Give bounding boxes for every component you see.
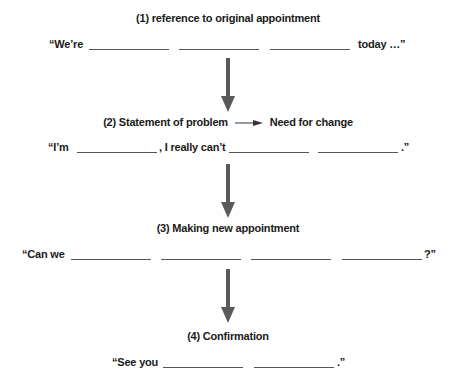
step-1-heading: (1) reference to original appointment bbox=[0, 12, 456, 24]
step-4-blank-2[interactable] bbox=[254, 367, 334, 368]
step-2-heading-right: Need for change bbox=[270, 116, 353, 128]
step-3-blank-2[interactable] bbox=[161, 259, 241, 260]
step-4-blank-1[interactable] bbox=[163, 367, 243, 368]
down-arrow-icon bbox=[220, 269, 236, 323]
step-2-prefix: “I’m bbox=[48, 141, 69, 153]
step-3-blank-3[interactable] bbox=[251, 259, 331, 260]
step-2-heading-left: (2) Statement of problem bbox=[103, 116, 228, 128]
step-3-heading: (3) Making new appointment bbox=[0, 222, 456, 234]
down-arrow-icon bbox=[220, 58, 236, 112]
step-2-suffix: .” bbox=[401, 141, 409, 153]
step-2-blank-2[interactable] bbox=[229, 152, 309, 153]
step-4-heading: (4) Confirmation bbox=[0, 330, 456, 342]
step-3-blank-1[interactable] bbox=[71, 259, 151, 260]
step-4-suffix: .” bbox=[337, 356, 345, 368]
step-1-blank-2[interactable] bbox=[179, 49, 259, 50]
step-1-suffix: today …” bbox=[358, 38, 405, 50]
step-1-prefix: “We’re bbox=[49, 38, 83, 50]
step-2-heading: (2) Statement of problem Need for change bbox=[0, 116, 456, 128]
right-arrow-icon bbox=[235, 119, 263, 127]
step-3-suffix: ?” bbox=[424, 248, 436, 260]
step-2-middle: , I really can’t bbox=[159, 141, 226, 153]
step-1-blank-3[interactable] bbox=[270, 49, 350, 50]
step-2-blank-1[interactable] bbox=[77, 152, 157, 153]
step-2-blank-3[interactable] bbox=[318, 152, 398, 153]
step-3-blank-4[interactable] bbox=[342, 259, 422, 260]
step-4-prefix: “See you bbox=[112, 356, 158, 368]
step-1-blank-1[interactable] bbox=[89, 49, 169, 50]
down-arrow-icon bbox=[220, 164, 236, 218]
step-3-prefix: “Can we bbox=[22, 248, 65, 260]
